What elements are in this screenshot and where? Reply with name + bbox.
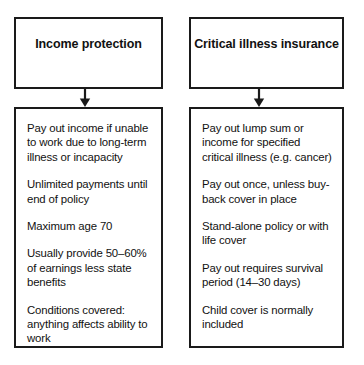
body-box-income-protection: Pay out income if unable to work due to … bbox=[14, 107, 163, 348]
list-item: Unlimited payments until end of policy bbox=[27, 177, 153, 206]
body-box-critical-illness-insurance: Pay out lump sum or income for specified… bbox=[189, 107, 344, 348]
list-item: Maximum age 70 bbox=[27, 219, 153, 233]
header-title-income-protection: Income protection bbox=[16, 36, 161, 52]
list-item: Usually provide 50–60% of earnings less … bbox=[27, 246, 153, 289]
comparison-diagram: Income protection Pay out income if unab… bbox=[0, 0, 364, 365]
item-list-income-protection: Pay out income if unable to work due to … bbox=[27, 121, 153, 346]
header-title-critical-illness-insurance: Critical illness insurance bbox=[191, 36, 342, 52]
list-item: Pay out lump sum or income for specified… bbox=[202, 121, 334, 164]
down-arrow-icon bbox=[252, 88, 266, 108]
list-item: Stand-alone policy or with life cover bbox=[202, 219, 334, 248]
column-critical-illness-insurance: Critical illness insurance Pay out lump … bbox=[189, 0, 344, 365]
item-list-critical-illness-insurance: Pay out lump sum or income for specified… bbox=[202, 121, 334, 331]
header-box-critical-illness-insurance: Critical illness insurance bbox=[189, 17, 344, 89]
list-item: Conditions covered: anything affects abi… bbox=[27, 303, 153, 346]
list-item: Child cover is normally included bbox=[202, 303, 334, 332]
list-item: Pay out income if unable to work due to … bbox=[27, 121, 153, 164]
header-box-income-protection: Income protection bbox=[14, 17, 163, 89]
down-arrow-icon bbox=[78, 88, 92, 108]
list-item: Pay out once, unless buy-back cover in p… bbox=[202, 177, 334, 206]
column-income-protection: Income protection Pay out income if unab… bbox=[14, 0, 163, 365]
list-item: Pay out requires survival period (14–30 … bbox=[202, 261, 334, 290]
